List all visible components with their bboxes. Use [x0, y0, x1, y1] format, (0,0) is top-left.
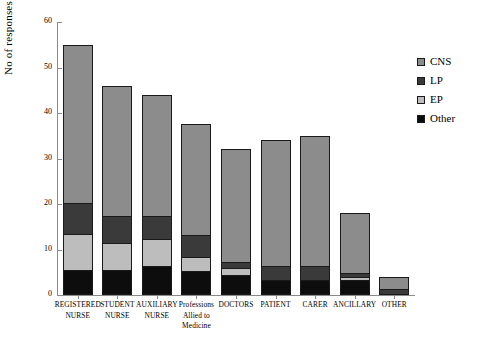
- bar-segment-other[interactable]: [301, 281, 329, 294]
- bar-segment-ep[interactable]: [103, 244, 131, 271]
- bar-segment-cns[interactable]: [341, 214, 369, 274]
- bar-segment-other[interactable]: [222, 276, 250, 294]
- y-tick-label: 60: [12, 16, 52, 25]
- bar-segment-other[interactable]: [182, 272, 210, 294]
- bar-segment-lp[interactable]: [103, 217, 131, 244]
- x-axis-label: OTHER: [357, 300, 431, 311]
- x-tick-mark: [236, 295, 237, 299]
- x-tick-mark: [394, 295, 395, 299]
- bar-stack[interactable]: [261, 140, 291, 295]
- bar-segment-cns[interactable]: [64, 46, 92, 204]
- chart-legend: CNSLPEPOther: [417, 52, 455, 128]
- legend-label: CNS: [430, 56, 451, 67]
- bar-segment-cns[interactable]: [103, 87, 131, 218]
- y-tick-label: 20: [12, 198, 52, 207]
- y-tick-label: 10: [12, 244, 52, 253]
- legend-swatch-icon: [417, 77, 425, 85]
- bar-segment-ep[interactable]: [143, 240, 171, 267]
- x-tick-mark: [276, 295, 277, 299]
- stacked-bar-chart: No of responses 0102030405060 REGISTERED…: [0, 0, 488, 353]
- bar-stack[interactable]: [181, 124, 211, 295]
- y-tick-label: 40: [12, 107, 52, 116]
- y-tick-label: 0: [12, 289, 52, 298]
- legend-item-cns[interactable]: CNS: [417, 52, 455, 71]
- legend-swatch-icon: [417, 115, 425, 123]
- bar-segment-other[interactable]: [64, 271, 92, 294]
- x-tick-mark: [78, 295, 79, 299]
- bar-stack[interactable]: [63, 45, 93, 295]
- bar-segment-cns[interactable]: [262, 141, 290, 267]
- x-tick-mark: [196, 295, 197, 299]
- x-axis-label-line: Allied to: [159, 311, 233, 322]
- bar-stack[interactable]: [379, 277, 409, 295]
- legend-swatch-icon: [417, 58, 425, 66]
- x-tick-mark: [157, 295, 158, 299]
- bar-segment-lp[interactable]: [222, 263, 250, 270]
- y-tick-mark: [57, 295, 62, 296]
- bar-segment-other[interactable]: [143, 267, 171, 294]
- y-tick-label: 50: [12, 62, 52, 71]
- legend-swatch-icon: [417, 96, 425, 104]
- y-tick-label: 30: [12, 153, 52, 162]
- bar-segment-lp[interactable]: [64, 204, 92, 236]
- bar-segment-lp[interactable]: [380, 290, 408, 294]
- bar-segment-cns[interactable]: [222, 150, 250, 262]
- bar-stack[interactable]: [142, 95, 172, 295]
- legend-item-ep[interactable]: EP: [417, 90, 455, 109]
- x-tick-mark: [355, 295, 356, 299]
- bar-stack[interactable]: [340, 213, 370, 295]
- bar-stack[interactable]: [221, 149, 251, 295]
- bar-segment-cns[interactable]: [182, 125, 210, 235]
- bar-segment-lp[interactable]: [262, 267, 290, 280]
- bar-segment-lp[interactable]: [301, 267, 329, 280]
- x-tick-mark: [117, 295, 118, 299]
- bar-segment-ep[interactable]: [64, 235, 92, 271]
- bar-segment-cns[interactable]: [143, 96, 171, 218]
- bar-segment-ep[interactable]: [182, 258, 210, 271]
- x-axis-label-line: Medicine: [159, 321, 233, 332]
- bar-segment-other[interactable]: [262, 281, 290, 294]
- bar-segment-ep[interactable]: [222, 269, 250, 276]
- legend-label: LP: [430, 75, 443, 86]
- x-tick-mark: [315, 295, 316, 299]
- legend-label: EP: [430, 94, 443, 105]
- legend-item-other[interactable]: Other: [417, 109, 455, 128]
- bar-segment-cns[interactable]: [380, 278, 408, 290]
- bar-segment-lp[interactable]: [182, 236, 210, 259]
- plot-area: [58, 22, 414, 295]
- bar-segment-other[interactable]: [103, 271, 131, 294]
- bar-stack[interactable]: [102, 86, 132, 295]
- bar-segment-lp[interactable]: [143, 217, 171, 240]
- bar-stack[interactable]: [300, 136, 330, 295]
- legend-label: Other: [430, 113, 455, 124]
- x-axis-label-line: OTHER: [357, 300, 431, 311]
- legend-item-lp[interactable]: LP: [417, 71, 455, 90]
- bar-segment-cns[interactable]: [301, 137, 329, 267]
- bar-segment-other[interactable]: [341, 281, 369, 294]
